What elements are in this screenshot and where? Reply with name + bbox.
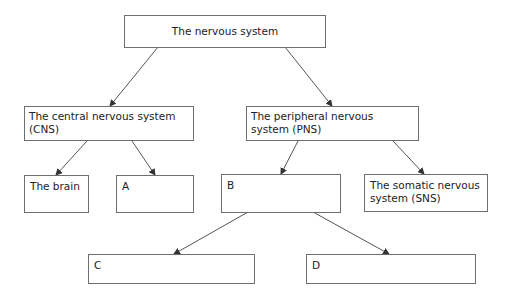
arrow-pns-to-b [281, 141, 298, 174]
arrow-cns-to-a [132, 141, 155, 175]
node-label: D [312, 259, 320, 271]
node-b: B [221, 174, 341, 213]
node-label: C [94, 259, 101, 271]
node-brain: The brain [24, 175, 89, 213]
node-somatic-nervous-system: The somatic nervous system (SNS) [364, 174, 488, 212]
nervous-system-diagram: The nervous system The central nervous s… [0, 0, 510, 297]
node-label: The nervous system [172, 25, 278, 38]
node-a: A [116, 175, 194, 213]
node-label: The peripheral nervous system (PNS) [251, 110, 373, 135]
arrow-root-to-pns [285, 47, 332, 106]
node-central-nervous-system: The central nervous system (CNS) [24, 106, 194, 141]
node-peripheral-nervous-system: The peripheral nervous system (PNS) [246, 106, 419, 141]
node-c: C [88, 254, 255, 284]
node-nervous-system: The nervous system [124, 15, 326, 48]
arrow-cns-to-brain [56, 141, 87, 175]
node-label: The somatic nervous system (SNS) [370, 179, 480, 204]
node-label: The central nervous system (CNS) [29, 110, 175, 135]
node-label: B [227, 179, 234, 191]
arrow-b-to-c [174, 212, 248, 254]
node-label: A [122, 180, 129, 192]
arrow-b-to-d [313, 212, 389, 254]
node-label: The brain [30, 180, 80, 192]
arrow-pns-to-sns [393, 141, 424, 174]
node-d: D [306, 254, 476, 284]
arrow-root-to-cns [110, 47, 158, 106]
